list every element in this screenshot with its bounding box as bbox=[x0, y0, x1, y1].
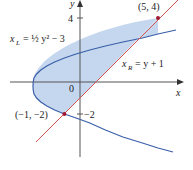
left-curve-label-eq: = ½ y² − 3 bbox=[23, 33, 65, 44]
right-curve-label-eq: = y + 1 bbox=[135, 58, 164, 69]
x-axis-label: x bbox=[175, 87, 181, 98]
y-tick-label-neg2: −2 bbox=[84, 109, 95, 120]
y-tick-label-4: 4 bbox=[68, 13, 73, 24]
point-label-lower: (−1, −2) bbox=[15, 109, 48, 121]
right-curve-label-var: x bbox=[121, 58, 127, 69]
origin-label: 0 bbox=[69, 83, 74, 94]
y-axis-label: y bbox=[69, 0, 75, 9]
left-curve-label-sub: L bbox=[15, 39, 20, 47]
point-label-upper: (5, 4) bbox=[138, 1, 160, 13]
left-curve-label-var: x bbox=[9, 33, 15, 44]
y-axis-arrow-icon bbox=[77, 0, 83, 7]
x-axis-arrow-icon bbox=[177, 79, 184, 85]
intersection-point-lower bbox=[62, 112, 66, 116]
right-curve-label-sub: R bbox=[127, 64, 133, 72]
area-between-curves-diagram: y x 0 4 −2 (5, 4) (−1, −2) x L = ½ y² − … bbox=[0, 0, 193, 170]
intersection-point-upper bbox=[156, 16, 160, 20]
